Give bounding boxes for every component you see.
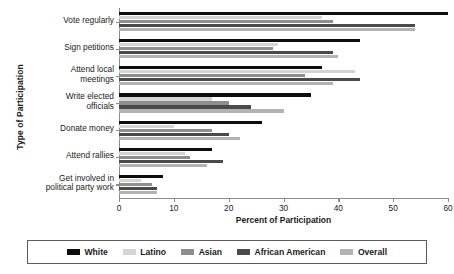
bar: [119, 129, 212, 132]
y-axis-tick: [116, 130, 120, 131]
category-label: Write electedofficials: [0, 92, 114, 111]
bar: [119, 16, 322, 19]
x-axis-tick-label: 0: [104, 203, 134, 213]
bar: [119, 93, 311, 96]
bar: [119, 47, 273, 50]
x-axis-tick-label: 30: [269, 203, 299, 213]
y-axis-tick: [116, 103, 120, 104]
bar: [119, 70, 355, 73]
x-axis-tick: [174, 198, 175, 202]
legend-swatch-icon: [181, 249, 194, 255]
legend-label: White: [84, 247, 107, 257]
legend-label: Asian: [199, 247, 222, 257]
category-label-line: Vote regularly: [0, 16, 114, 26]
bar: [119, 101, 229, 104]
legend-swatch-icon: [123, 249, 136, 255]
bar: [119, 179, 141, 182]
legend-swatch-icon: [67, 249, 80, 255]
bar: [119, 152, 185, 155]
bar: [119, 28, 415, 31]
bar: [119, 187, 157, 190]
bar: [119, 43, 278, 46]
bar: [119, 125, 174, 128]
y-axis-tick: [116, 157, 120, 158]
bar: [119, 156, 190, 159]
legend-item[interactable]: Latino: [123, 247, 166, 257]
legend-swatch-icon: [340, 249, 353, 255]
category-label-line: Attend rallies: [0, 151, 114, 161]
legend-label: Latino: [140, 247, 166, 257]
bar: [119, 133, 229, 136]
bar: [119, 51, 333, 54]
bar: [119, 74, 305, 77]
x-axis-tick: [119, 198, 120, 202]
bar: [119, 164, 207, 167]
x-axis-title: Percent of Participation: [119, 215, 448, 225]
bar: [119, 78, 360, 81]
bar: [119, 97, 212, 100]
bar-group: [119, 39, 448, 58]
legend-label: African American: [255, 247, 326, 257]
legend-item[interactable]: White: [67, 247, 108, 257]
x-axis-tick-label: 50: [378, 203, 408, 213]
bar: [119, 24, 415, 27]
category-label: Donate money: [0, 124, 114, 134]
bar-group: [119, 175, 448, 194]
category-label: Sign petitions: [0, 43, 114, 53]
x-axis-tick: [338, 198, 339, 202]
legend-item[interactable]: African American: [237, 247, 325, 257]
category-label-line: officials: [0, 102, 114, 112]
category-label-line: meetings: [0, 75, 114, 85]
legend-item[interactable]: Overall: [340, 247, 387, 257]
x-axis-tick-label: 20: [214, 203, 244, 213]
y-axis-tick: [116, 184, 120, 185]
category-label: Get involved inpolitical party work: [0, 174, 114, 193]
x-axis-tick: [229, 198, 230, 202]
chart-legend: WhiteLatinoAsianAfrican AmericanOverall: [27, 240, 427, 264]
legend-swatch-icon: [237, 249, 250, 255]
x-axis-tick-label: 40: [323, 203, 353, 213]
bar: [119, 39, 360, 42]
bar: [119, 183, 152, 186]
category-label: Attend rallies: [0, 151, 114, 161]
bar: [119, 82, 333, 85]
x-axis-tick: [393, 198, 394, 202]
bar-group: [119, 12, 448, 31]
bar: [119, 109, 284, 112]
bar-group: [119, 148, 448, 167]
category-label: Attend localmeetings: [0, 65, 114, 84]
y-axis-tick: [116, 76, 120, 77]
bar-group: [119, 121, 448, 140]
bar: [119, 121, 262, 124]
bar-group: [119, 93, 448, 112]
bar: [119, 66, 322, 69]
plot-area: [119, 8, 448, 198]
bar: [119, 148, 212, 151]
bar: [119, 175, 163, 178]
bar: [119, 137, 240, 140]
y-axis-tick: [116, 22, 120, 23]
bar: [119, 191, 157, 194]
bar: [119, 105, 251, 108]
bar: [119, 55, 338, 58]
participation-bar-chart: Type of Participation 0102030405060 Perc…: [0, 0, 454, 274]
x-axis-tick-label: 60: [433, 203, 454, 213]
category-label-line: Sign petitions: [0, 43, 114, 53]
category-label-line: Donate money: [0, 124, 114, 134]
x-axis-tick-label: 10: [159, 203, 189, 213]
legend-label: Overall: [358, 247, 387, 257]
bar: [119, 160, 223, 163]
bar-group: [119, 66, 448, 85]
bar: [119, 20, 333, 23]
category-label: Vote regularly: [0, 16, 114, 26]
category-label-line: political party work: [0, 183, 114, 193]
x-axis-tick: [284, 198, 285, 202]
y-axis-tick: [116, 49, 120, 50]
x-axis-tick: [448, 198, 449, 202]
legend-item[interactable]: Asian: [181, 247, 222, 257]
bar: [119, 12, 448, 15]
